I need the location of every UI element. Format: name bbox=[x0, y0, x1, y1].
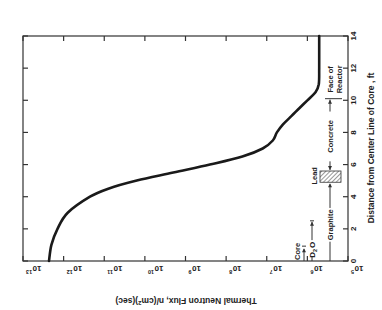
lead-hatched-region bbox=[320, 171, 341, 182]
flux-tick-label: 106 bbox=[310, 264, 322, 275]
arrowhead-icon bbox=[310, 222, 314, 226]
arrowhead-icon bbox=[328, 166, 332, 170]
flux-tick-label: 108 bbox=[229, 264, 241, 275]
flux-axis-ticks bbox=[23, 36, 348, 261]
flux-axis-tick-labels: 1013101210111010109108107106105 bbox=[26, 264, 363, 275]
distance-tick-label: 2 bbox=[349, 226, 358, 231]
flux-tick-label: 1010 bbox=[148, 264, 164, 275]
annotation-concrete: Concrete bbox=[326, 120, 335, 153]
distance-tick-label: 8 bbox=[349, 130, 358, 135]
flux-tick-label: 1013 bbox=[26, 264, 42, 275]
distance-axis-tick-labels: 02468101214 bbox=[349, 31, 358, 263]
flux-tick-label: 105 bbox=[351, 264, 363, 275]
arrowhead-icon bbox=[328, 100, 332, 104]
distance-tick-label: 10 bbox=[349, 95, 358, 104]
distance-tick-label: 4 bbox=[349, 194, 358, 199]
annotation-face-of-reactor-line1: Face of bbox=[326, 66, 335, 93]
annotation-core: Core bbox=[293, 243, 302, 260]
distance-axis-ticks bbox=[23, 36, 348, 261]
distance-tick-label: 14 bbox=[349, 31, 358, 40]
flux-curve bbox=[49, 36, 319, 261]
distance-tick-label: 6 bbox=[349, 162, 358, 167]
distance-axis-title: Distance from Center Line of Core , ft bbox=[366, 73, 376, 224]
region-annotations: CoreD2OGraphiteLeadConcreteFace ofReacto… bbox=[293, 65, 344, 261]
distance-tick-label: 0 bbox=[349, 258, 358, 263]
annotation-lead: Lead bbox=[310, 167, 319, 185]
distance-tick-label: 12 bbox=[349, 63, 358, 72]
annotation-d2o: D2O bbox=[308, 242, 318, 258]
annotation-graphite: Graphite bbox=[326, 209, 335, 240]
arrowhead-icon bbox=[302, 248, 306, 252]
annotation-face-of-reactor-line2: Reactor bbox=[335, 65, 344, 93]
flux-tick-label: 107 bbox=[270, 264, 282, 275]
neutron-flux-chart: 1013101210111010109108107106105 02468101… bbox=[0, 0, 382, 310]
arrowhead-icon bbox=[328, 183, 332, 187]
flux-axis-title: Thermal Neutron Flux, n/(cm2)(sec) bbox=[115, 296, 256, 306]
flux-tick-label: 1011 bbox=[107, 264, 122, 275]
flux-tick-label: 1012 bbox=[67, 264, 83, 275]
flux-tick-label: 109 bbox=[189, 264, 201, 275]
plot-frame bbox=[23, 36, 348, 261]
